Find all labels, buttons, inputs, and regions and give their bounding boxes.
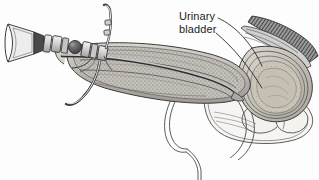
eyepiece-cone-dark [34,32,44,54]
label-urinary-bladder: Urinary bladder [179,10,216,35]
tube-connector-1 [104,30,111,36]
barrel-segment-1 [51,36,62,53]
tube-connector-2 [105,20,111,26]
cystoscopy-figure: Urinary bladder [0,0,319,180]
label-urinary-bladder-line2: bladder [179,23,216,36]
stopcock-knob [69,41,82,54]
anatomical-illustration [0,0,319,180]
knob-highlight [71,43,75,47]
label-urinary-bladder-line1: Urinary [179,10,216,23]
